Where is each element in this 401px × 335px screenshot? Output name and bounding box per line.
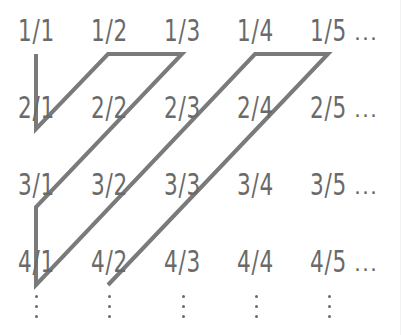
column-5-continuation: [328, 295, 332, 325]
column-4-continuation: [255, 295, 259, 325]
fraction-3-1: 3/1: [18, 170, 55, 200]
fraction-4-4: 4/4: [237, 247, 274, 277]
fraction-2-1: 2/1: [18, 93, 55, 123]
fraction-3-2: 3/2: [91, 170, 128, 200]
fraction-1-2: 1/2: [91, 16, 128, 46]
row-3-continuation: ...: [354, 176, 378, 198]
fraction-3-3: 3/3: [164, 170, 201, 200]
row-4-continuation: ...: [354, 253, 378, 275]
row-2-continuation: ...: [354, 99, 378, 121]
fraction-2-4: 2/4: [237, 93, 274, 123]
column-1-continuation: [35, 295, 39, 325]
fraction-4-2: 4/2: [91, 247, 128, 277]
fraction-2-3: 2/3: [164, 93, 201, 123]
column-3-continuation: [182, 295, 186, 325]
fraction-1-3: 1/3: [164, 16, 201, 46]
fraction-3-5: 3/5: [310, 170, 347, 200]
fraction-1-5: 1/5: [310, 16, 347, 46]
fraction-4-1: 4/1: [18, 247, 55, 277]
column-2-continuation: [108, 295, 112, 325]
fraction-1-4: 1/4: [237, 16, 274, 46]
fraction-4-3: 4/3: [164, 247, 201, 277]
fraction-3-4: 3/4: [237, 170, 274, 200]
row-1-continuation: ...: [354, 22, 378, 44]
fraction-2-5: 2/5: [310, 93, 347, 123]
fraction-1-1: 1/1: [18, 16, 55, 46]
fraction-2-2: 2/2: [91, 93, 128, 123]
fraction-4-5: 4/5: [310, 247, 347, 277]
